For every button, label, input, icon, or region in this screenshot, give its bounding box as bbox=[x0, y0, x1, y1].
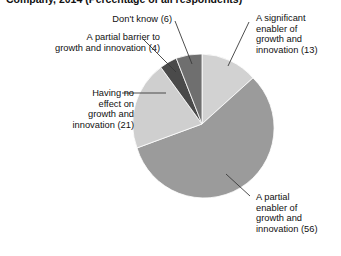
label-partial-enabler: A partial enabler of growth and innovati… bbox=[256, 192, 340, 234]
label-line-2: enabler of bbox=[256, 24, 297, 34]
label-line-1: Having no bbox=[92, 88, 134, 98]
label-line-4: innovation (13) bbox=[256, 45, 318, 55]
pie-chart-figure: Company, 2014 (Percentage of all respond… bbox=[0, 0, 341, 256]
label-line-2: growth and innovation (4) bbox=[55, 43, 160, 53]
label-line-2: enabler of bbox=[256, 203, 297, 213]
leader-line-significant-enabler bbox=[228, 22, 249, 66]
label-line-4: innovation (56) bbox=[256, 224, 318, 234]
label-significant-enabler: A significant enabler of growth and inno… bbox=[256, 13, 340, 55]
label-line-1: Don't know (6) bbox=[112, 14, 172, 24]
label-line-3: growth and bbox=[256, 213, 302, 223]
label-line-4: innovation (21) bbox=[72, 120, 134, 130]
label-line-3: growth and bbox=[256, 34, 302, 44]
label-line-1: A significant bbox=[256, 13, 306, 23]
label-line-1: A partial barrier to bbox=[87, 32, 160, 42]
label-line-1: A partial bbox=[256, 192, 290, 202]
label-no-effect: Having no effect on growth and innovatio… bbox=[10, 88, 134, 130]
label-partial-barrier: A partial barrier to growth and innovati… bbox=[12, 32, 160, 53]
label-line-2: effect on bbox=[99, 99, 135, 109]
label-line-3: growth and bbox=[88, 109, 134, 119]
label-dont-know: Don't know (6) bbox=[62, 14, 172, 25]
